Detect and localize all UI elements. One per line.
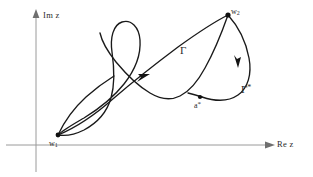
axes-group	[6, 9, 275, 172]
point-label-w1-subscript: 1	[55, 142, 58, 148]
real-axis-label: Re z	[277, 140, 294, 149]
point-label-a-star: a*	[194, 101, 201, 110]
point-marker-a-star	[198, 95, 202, 99]
complex-plane-figure: Im z Re z w1 w2 a* Γ Γ*	[0, 0, 313, 177]
curve-label-gamma-star: Γ*	[241, 84, 251, 95]
point-marker-w1	[56, 133, 61, 138]
gamma-left-loop-path	[58, 21, 140, 135]
point-marker-w2	[225, 12, 230, 17]
point-label-w2: w2	[231, 8, 240, 16]
real-axis-arrowhead	[265, 142, 275, 149]
gamma-star-direction-arrow	[234, 55, 241, 68]
curve-label-gamma-star-superscript: *	[247, 83, 251, 92]
point-label-w1: w1	[49, 140, 58, 148]
imaginary-axis-arrowhead	[33, 9, 40, 18]
curve-label-gamma: Γ	[180, 45, 186, 56]
contour-curves-group	[58, 15, 250, 135]
figure-canvas	[0, 0, 313, 177]
point-label-a-star-superscript: *	[198, 100, 202, 108]
imaginary-axis-label: Im z	[43, 11, 60, 20]
direction-arrowheads-group	[137, 55, 241, 82]
point-label-w2-subscript: 2	[237, 10, 240, 16]
